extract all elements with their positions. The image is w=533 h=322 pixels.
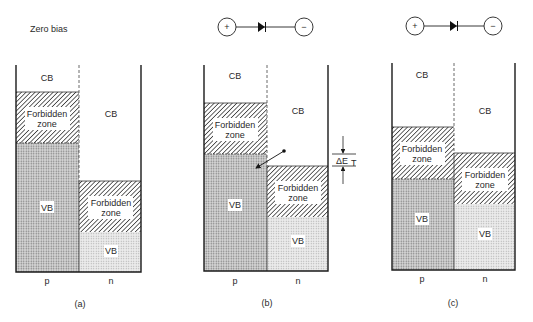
p-valence-band bbox=[204, 154, 267, 271]
n-side-label: n bbox=[482, 274, 487, 284]
n-forbidden-label: Forbidden bbox=[465, 170, 506, 180]
p-cb-label: CB bbox=[229, 71, 242, 81]
p-side-label: p bbox=[44, 276, 49, 286]
panel-a: CB Forbidden zone VB CB Forbidden zone V… bbox=[16, 65, 141, 309]
p-side-label: p bbox=[232, 276, 237, 286]
diode-icon bbox=[450, 21, 457, 31]
n-vb-label: VB bbox=[292, 236, 304, 246]
svg-text:−: − bbox=[301, 22, 306, 32]
n-side-label: n bbox=[295, 276, 300, 286]
caption-a: (a) bbox=[75, 299, 86, 309]
p-vb-label: VB bbox=[41, 203, 53, 213]
p-forbidden-label: Forbidden bbox=[27, 109, 68, 119]
n-cb-label: CB bbox=[105, 109, 118, 119]
p-forbidden-label-2: zone bbox=[37, 119, 57, 129]
n-forbidden-label-2: zone bbox=[101, 208, 121, 218]
p-cb-label: CB bbox=[41, 73, 54, 83]
forward-bias-circuit-c: + − bbox=[406, 17, 502, 35]
delta-et-subscript: T bbox=[351, 158, 357, 168]
diode-icon bbox=[258, 22, 265, 32]
n-vb-label: VB bbox=[105, 246, 117, 256]
delta-et-annotation: ΔE T bbox=[332, 136, 357, 184]
n-side-label: n bbox=[108, 276, 113, 286]
n-forbidden-label-2: zone bbox=[288, 193, 308, 203]
caption-b: (b) bbox=[262, 298, 273, 308]
svg-text:+: + bbox=[412, 21, 417, 31]
p-vb-label: VB bbox=[229, 200, 241, 210]
p-cb-label: CB bbox=[416, 70, 429, 80]
p-forbidden-label: Forbidden bbox=[215, 120, 256, 130]
svg-text:+: + bbox=[224, 22, 229, 32]
p-vb-label: VB bbox=[416, 214, 428, 224]
p-forbidden-label-2: zone bbox=[225, 130, 245, 140]
band-diagram: Zero bias CB Forbidden zone VB CB Forbid… bbox=[0, 0, 533, 322]
n-cb-label: CB bbox=[292, 106, 305, 116]
caption-c: (c) bbox=[448, 298, 459, 308]
panel-b: + − CB Forbidden zone VB CB Forb bbox=[204, 18, 357, 308]
n-cb-label: CB bbox=[479, 106, 492, 116]
p-forbidden-label: Forbidden bbox=[402, 144, 443, 154]
n-forbidden-label-2: zone bbox=[475, 180, 495, 190]
p-side-label: p bbox=[419, 274, 424, 284]
zero-bias-title: Zero bias bbox=[30, 24, 68, 34]
p-forbidden-label-2: zone bbox=[412, 154, 432, 164]
svg-text:−: − bbox=[490, 21, 495, 31]
panel-c: + − CB Forbidden zone VB CB Forbidden zo… bbox=[392, 17, 515, 308]
n-vb-label: VB bbox=[479, 229, 491, 239]
n-forbidden-label: Forbidden bbox=[278, 183, 319, 193]
delta-et-label: ΔE bbox=[336, 156, 348, 166]
forward-bias-circuit: + − bbox=[218, 18, 313, 36]
n-forbidden-label: Forbidden bbox=[91, 198, 132, 208]
